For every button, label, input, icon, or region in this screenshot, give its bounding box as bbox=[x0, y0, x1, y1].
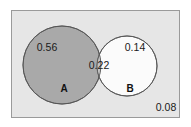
venn-diagram-canvas: 0.56 0.22 0.14 0.08 A B bbox=[0, 0, 191, 127]
outside-sets-value: 0.08 bbox=[156, 101, 177, 113]
set-b-label: B bbox=[126, 83, 133, 94]
set-a-only-value: 0.56 bbox=[37, 41, 58, 53]
set-a-label: A bbox=[60, 83, 67, 94]
set-b-only-value: 0.14 bbox=[125, 41, 146, 53]
venn-diagram-figure: 0.56 0.22 0.14 0.08 A B bbox=[0, 0, 191, 127]
intersection-value: 0.22 bbox=[89, 59, 110, 71]
